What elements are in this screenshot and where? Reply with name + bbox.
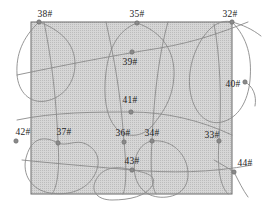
node-marker-39[interactable] <box>130 50 134 54</box>
node-label-32: 32# <box>223 9 238 19</box>
node-label-42: 42# <box>16 127 31 137</box>
node-marker-34[interactable] <box>150 139 154 143</box>
node-marker-41[interactable] <box>129 110 133 114</box>
node-marker-32[interactable] <box>230 20 234 24</box>
node-label-34: 34# <box>145 128 160 138</box>
node-label-36: 36# <box>116 128 131 138</box>
node-marker-42[interactable] <box>14 139 18 143</box>
tail-44-right <box>234 172 248 197</box>
node-marker-38[interactable] <box>37 20 41 24</box>
arc-40-right <box>245 82 256 106</box>
node-marker-40[interactable] <box>243 80 247 84</box>
node-label-43: 43# <box>125 156 140 166</box>
node-label-39: 39# <box>123 57 138 67</box>
node-label-33: 33# <box>205 130 220 140</box>
node-marker-44[interactable] <box>232 170 236 174</box>
diagram-canvas: 38#35#32#39#40#41#42#37#36#34#33#43#44# <box>0 0 264 207</box>
tail-32-right <box>232 22 261 36</box>
node-marker-37[interactable] <box>56 141 60 145</box>
node-label-38: 38# <box>38 9 53 19</box>
node-label-41: 41# <box>123 95 138 105</box>
node-marker-36[interactable] <box>122 140 126 144</box>
node-label-44: 44# <box>238 158 253 168</box>
node-label-35: 35# <box>130 9 145 19</box>
node-marker-35[interactable] <box>135 21 139 25</box>
node-marker-43[interactable] <box>130 168 134 172</box>
node-label-37: 37# <box>57 127 72 137</box>
node-label-40: 40# <box>226 79 241 89</box>
